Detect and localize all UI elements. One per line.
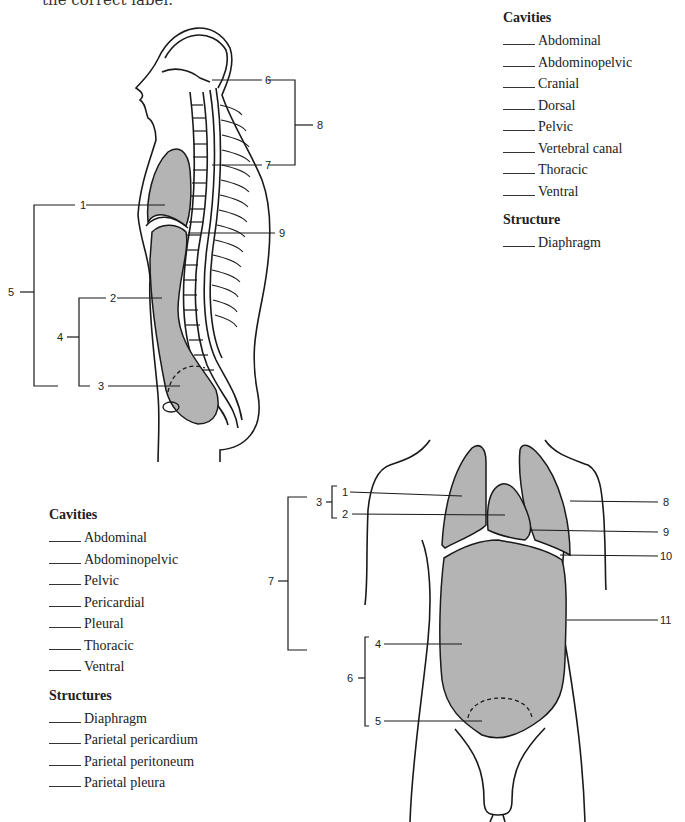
term-item: Ventral	[49, 656, 198, 678]
answer-blank[interactable]	[503, 159, 535, 174]
frontal-label-1: 1	[342, 486, 348, 498]
frontal-label-11: 11	[660, 614, 671, 626]
frontal-label-9: 9	[663, 526, 669, 538]
sagittal-label-7: 7	[265, 159, 271, 171]
frontal-structures-heading: Structures	[49, 688, 198, 704]
answer-blank[interactable]	[49, 592, 81, 607]
answer-blank[interactable]	[503, 95, 535, 110]
sagittal-label-9: 9	[279, 227, 285, 239]
frontal-abdominopelvic-cavity	[440, 540, 566, 738]
sagittal-thoracic-cavity	[148, 149, 191, 226]
term-item: Pelvic	[503, 116, 632, 138]
term-item: Cranial	[503, 73, 632, 95]
sagittal-cavities-heading: Cavities	[503, 10, 632, 26]
term-item: Abdominopelvic	[49, 549, 198, 571]
term-item: Parietal pleura	[49, 772, 198, 794]
answer-blank[interactable]	[503, 52, 535, 67]
term-item: Dorsal	[503, 95, 632, 117]
term-item: Thoracic	[503, 159, 632, 181]
sagittal-abdominopelvic-cavity	[150, 225, 218, 424]
frontal-label-4: 4	[375, 638, 381, 650]
term-item: Abdominal	[49, 527, 198, 549]
frontal-label-5: 5	[375, 715, 381, 727]
answer-blank[interactable]	[503, 181, 535, 196]
frontal-label-2: 2	[342, 508, 348, 520]
answer-blank[interactable]	[503, 232, 535, 247]
term-item: Pelvic	[49, 570, 198, 592]
sagittal-label-4: 4	[57, 331, 63, 343]
sagittal-label-2: 2	[110, 292, 116, 304]
answer-blank[interactable]	[49, 549, 81, 564]
answer-blank[interactable]	[503, 116, 535, 131]
frontal-right-lung	[442, 446, 486, 548]
answer-blank[interactable]	[49, 751, 81, 766]
answer-blank[interactable]	[49, 570, 81, 585]
term-item: Diaphragm	[49, 708, 198, 730]
term-item: Pleural	[49, 613, 198, 635]
answer-blank[interactable]	[503, 73, 535, 88]
answer-blank[interactable]	[49, 772, 81, 787]
term-item: Ventral	[503, 181, 632, 203]
answer-blank[interactable]	[49, 708, 81, 723]
answer-blank[interactable]	[49, 729, 81, 744]
frontal-label-8: 8	[663, 496, 669, 508]
sagittal-term-list: Cavities Abdominal Abdominopelvic Crania…	[503, 10, 632, 254]
answer-blank[interactable]	[49, 635, 81, 650]
term-item: Thoracic	[49, 635, 198, 657]
answer-blank[interactable]	[49, 527, 81, 542]
frontal-label-3: 3	[316, 496, 322, 508]
frontal-label-7: 7	[268, 575, 274, 587]
term-item: Abdominal	[503, 30, 632, 52]
sagittal-label-6: 6	[265, 74, 271, 86]
term-item: Parietal peritoneum	[49, 751, 198, 773]
frontal-term-list: Cavities Abdominal Abdominopelvic Pelvic…	[49, 507, 198, 794]
term-item: Abdominopelvic	[503, 52, 632, 74]
answer-blank[interactable]	[49, 656, 81, 671]
answer-blank[interactable]	[503, 30, 535, 45]
frontal-cavities-heading: Cavities	[49, 507, 198, 523]
sagittal-label-3: 3	[98, 380, 104, 392]
frontal-label-10: 10	[660, 550, 672, 562]
answer-blank[interactable]	[49, 613, 81, 628]
frontal-label-6: 6	[347, 672, 353, 684]
sagittal-label-8: 8	[317, 119, 323, 131]
sagittal-label-5: 5	[8, 286, 14, 298]
sagittal-structure-heading: Structure	[503, 212, 632, 228]
answer-blank[interactable]	[503, 138, 535, 153]
sagittal-label-1: 1	[80, 199, 86, 211]
term-item: Parietal pericardium	[49, 729, 198, 751]
term-item: Diaphragm	[503, 232, 632, 254]
term-item: Vertebral canal	[503, 138, 632, 160]
term-item: Pericardial	[49, 592, 198, 614]
